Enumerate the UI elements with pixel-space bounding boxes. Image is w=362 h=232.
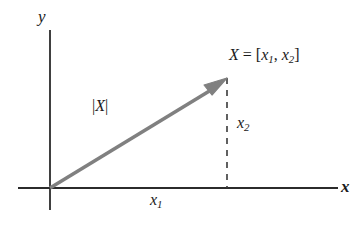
vector-shaft — [50, 87, 216, 188]
vector-diagram: y x X = [x1, x2] |X| x1 x2 — [0, 0, 362, 232]
vector-point-component2: x — [282, 46, 289, 63]
x2-sub: 2 — [244, 121, 249, 133]
y-axis-label: y — [38, 8, 46, 25]
x2-component-label: x2 — [237, 115, 250, 133]
vector-point-label: X = [x1, x2] — [229, 47, 300, 65]
x1-component-label: x1 — [150, 192, 163, 210]
magnitude-name: X — [95, 97, 105, 114]
vector-point-equals: = [ — [239, 46, 261, 63]
diagram-canvas — [0, 0, 362, 232]
vector-point-separator: , — [274, 46, 282, 63]
vector-magnitude-label: |X| — [92, 98, 108, 114]
x1-sub: 1 — [157, 198, 162, 210]
x-axis-label: x — [341, 178, 350, 195]
vector-point-name: X — [229, 46, 239, 63]
magnitude-close-bar: | — [105, 97, 108, 114]
vector-point-close: ] — [294, 46, 299, 63]
